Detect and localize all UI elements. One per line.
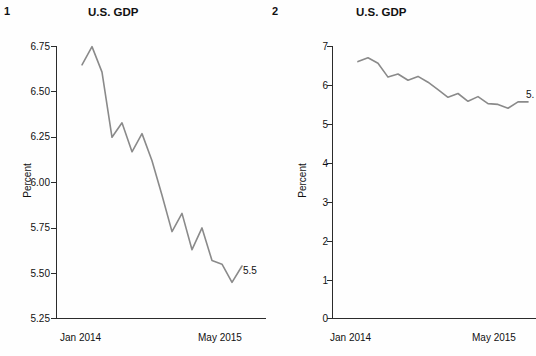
- series-line-1: [82, 47, 242, 283]
- chart-canvas-1: [0, 0, 268, 356]
- panel-2: 2 U.S. GDP Percent 7 6 5 4 3 2 1 0 Jan 2…: [268, 0, 536, 356]
- y-axis-ticks-2: [327, 47, 333, 319]
- panel-1: 1 U.S. GDP Percent 6.75 6.50 6.25 6.00 5…: [0, 0, 268, 356]
- chart-canvas-2: [268, 0, 536, 356]
- series-line-2: [358, 58, 528, 108]
- figure-two-panel-gdp-comparison: 1 U.S. GDP Percent 6.75 6.50 6.25 6.00 5…: [0, 0, 536, 356]
- y-axis-ticks-1: [51, 47, 57, 319]
